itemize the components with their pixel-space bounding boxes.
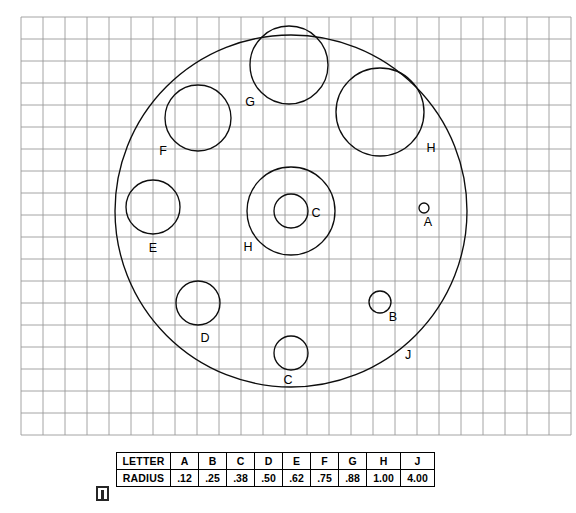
circle-figure: JGHFEHCADBC: [0, 0, 576, 513]
letter-cell-c: C: [227, 453, 255, 470]
circle-group: [115, 26, 467, 387]
letter-cell-a: A: [171, 453, 199, 470]
circle-h-5: [247, 167, 335, 255]
letter-cell-g: G: [339, 453, 367, 470]
circle-c-10: [274, 336, 308, 370]
table-row-radius: RADIUS .12 .25 .38 .50 .62 .75 .88 1.00 …: [117, 470, 435, 487]
radius-cell-c: .38: [227, 470, 255, 487]
circle-label-j-0: J: [405, 348, 411, 362]
row-header-radius: RADIUS: [117, 470, 171, 487]
circle-a-7: [419, 203, 429, 213]
letter-cell-e: E: [283, 453, 311, 470]
circle-label-group: JGHFEHCADBC: [149, 95, 436, 387]
letter-cell-j: J: [401, 453, 435, 470]
circle-label-c-10: C: [283, 373, 292, 387]
radius-cell-h: 1.00: [367, 470, 401, 487]
circle-e-4: [126, 180, 180, 234]
circle-d-8: [176, 281, 220, 325]
letter-cell-d: D: [255, 453, 283, 470]
circle-j-0: [115, 35, 467, 387]
circle-label-c-6: C: [311, 206, 320, 220]
page-corner-artifact: [96, 486, 109, 501]
circle-h-2: [336, 68, 424, 156]
circle-b-9: [369, 291, 391, 313]
drawing-page: JGHFEHCADBC LETTER A B C D E F G H J RAD…: [0, 0, 576, 513]
radius-cell-b: .25: [199, 470, 227, 487]
circle-label-a-7: A: [424, 215, 433, 229]
letter-cell-h: H: [367, 453, 401, 470]
circle-label-e-4: E: [149, 241, 157, 255]
circle-label-h-5: H: [243, 240, 252, 254]
letter-cell-f: F: [311, 453, 339, 470]
table-row-letter: LETTER A B C D E F G H J: [117, 453, 435, 470]
circle-label-h-2: H: [426, 141, 435, 155]
radius-cell-e: .62: [283, 470, 311, 487]
circle-c-6: [274, 194, 308, 228]
radius-cell-g: .88: [339, 470, 367, 487]
circle-label-g-1: G: [245, 95, 255, 109]
row-header-letter: LETTER: [117, 453, 171, 470]
radius-legend-table: LETTER A B C D E F G H J RADIUS .12 .25 …: [116, 452, 435, 487]
circle-g-1: [250, 26, 328, 104]
radius-cell-a: .12: [171, 470, 199, 487]
circle-label-d-8: D: [200, 331, 209, 345]
radius-cell-j: 4.00: [401, 470, 435, 487]
circle-f-3: [165, 85, 231, 151]
circle-label-b-9: B: [389, 310, 397, 324]
circle-label-f-3: F: [159, 144, 167, 158]
radius-cell-d: .50: [255, 470, 283, 487]
radius-cell-f: .75: [311, 470, 339, 487]
letter-cell-b: B: [199, 453, 227, 470]
